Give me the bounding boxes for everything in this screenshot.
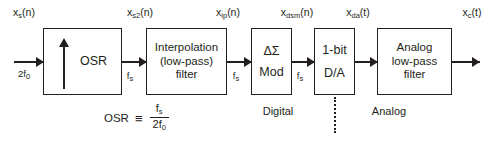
block-diagram: xs(n) xs2(n) xip(n) xdsm(n) xda(t) xc(t)… xyxy=(0,0,496,144)
signal-label-x-dsm: xdsm(n) xyxy=(281,6,313,20)
signal-arg: (n) xyxy=(227,6,240,18)
arrowhead-output xyxy=(472,57,480,67)
formula-denominator: 2f0 xyxy=(150,117,169,132)
block-delta-sigma-modulator[interactable]: ΔΣ Mod xyxy=(251,28,292,95)
up-arrow-head-icon xyxy=(59,38,69,47)
formula-denominator-subscript: 0 xyxy=(162,122,166,131)
block-interpolation-line-2: (low-pass) xyxy=(160,55,213,69)
signal-label-x-da: xda(t) xyxy=(346,6,370,20)
formula-numerator-subscript: s xyxy=(159,107,163,116)
block-analog-line-3: filter xyxy=(404,68,426,82)
formula-fraction: fs 2f0 xyxy=(150,103,169,131)
block-one-bit-dac[interactable]: 1-bit D/A xyxy=(314,28,355,95)
rate-subscript: s xyxy=(235,74,239,83)
signal-arg: (n) xyxy=(140,6,153,18)
formula-identity-symbol: ≡ xyxy=(135,111,143,126)
rate-label-interpolation-output: fs xyxy=(233,70,239,83)
block-analog-line-1: Analog xyxy=(397,41,433,55)
signal-subscript: s2 xyxy=(132,11,140,20)
rate-subscript: 0 xyxy=(26,72,30,81)
signal-label-x-s2: xs2(n) xyxy=(127,6,153,20)
block-interpolation-filter[interactable]: Interpolation (low-pass) filter xyxy=(146,28,227,95)
signal-label-x-s: xs(n) xyxy=(13,6,35,20)
rate-label-modulator-output: fs xyxy=(297,70,303,83)
formula-lhs: OSR xyxy=(104,112,129,124)
signal-arg: (t) xyxy=(360,6,370,18)
formula-numerator: fs xyxy=(153,103,166,117)
signal-label-x-ip: xip(n) xyxy=(216,6,240,20)
formula-denominator-base: 2f xyxy=(153,118,162,130)
block-dac-line-2: D/A xyxy=(324,66,345,81)
rate-base: 2f xyxy=(18,68,26,79)
signal-arg: (t) xyxy=(472,6,482,18)
block-modulator-line-1: ΔΣ xyxy=(263,44,279,59)
rate-subscript: s xyxy=(129,74,133,83)
digital-analog-divider xyxy=(334,97,336,133)
signal-arg: (n) xyxy=(300,6,313,18)
rate-label-input: 2f0 xyxy=(18,68,30,81)
block-analog-low-pass-filter[interactable]: Analog low-pass filter xyxy=(377,28,452,95)
domain-label-analog: Analog xyxy=(372,105,406,117)
signal-arg: (n) xyxy=(22,6,35,18)
domain-label-digital: Digital xyxy=(263,105,294,117)
rate-subscript: s xyxy=(299,74,303,83)
block-interpolation-line-1: Interpolation xyxy=(155,41,218,55)
block-interpolation-line-3: filter xyxy=(176,68,198,82)
up-arrow-icon xyxy=(63,47,65,89)
osr-definition-formula: OSR ≡ fs 2f0 xyxy=(104,104,169,132)
block-dac-line-1: 1-bit xyxy=(322,43,346,58)
block-osr-label: OSR xyxy=(80,54,107,69)
signal-subscript: da xyxy=(351,11,359,20)
block-analog-line-2: low-pass xyxy=(392,55,437,69)
signal-subscript: dsm xyxy=(286,11,300,20)
block-modulator-line-2: Mod xyxy=(259,65,283,80)
block-osr[interactable]: OSR xyxy=(43,28,122,95)
signal-label-x-c: xc(t) xyxy=(463,6,482,20)
rate-label-osr-output: fs xyxy=(127,70,133,83)
